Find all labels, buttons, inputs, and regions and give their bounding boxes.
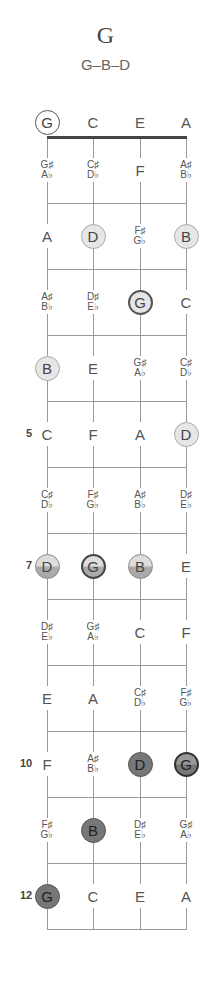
note-cell: G bbox=[27, 878, 67, 914]
note-cell: G♯A♭ bbox=[120, 350, 160, 386]
note-cell: D bbox=[27, 548, 67, 584]
enharmonic-note-label: A♯B♭ bbox=[87, 754, 99, 774]
enharmonic-note-label: F♯G♭ bbox=[41, 820, 54, 840]
note-cell: D♯E♭ bbox=[27, 614, 67, 650]
fretboard-diagram: GCEAG♯A♭C♯D♭FA♯B♭ADF♯G♭BA♯B♭D♯E♭GCBEG♯A♭… bbox=[0, 0, 211, 994]
note-cell: G♯A♭ bbox=[27, 152, 67, 188]
note-cell: G bbox=[73, 548, 113, 584]
note-cell: A♯B♭ bbox=[27, 284, 67, 320]
enharmonic-note-label: F♯G♭ bbox=[87, 490, 100, 510]
enharmonic-note-label: D♯E♭ bbox=[41, 622, 53, 642]
note-cell: E bbox=[120, 104, 160, 140]
note-cell: D♯E♭ bbox=[120, 812, 160, 848]
note-cell: F bbox=[120, 152, 160, 188]
chord-tone-dot: D bbox=[128, 752, 153, 777]
note-cell: F bbox=[73, 416, 113, 452]
chord-tone-dot: G bbox=[174, 752, 199, 777]
chord-tone-dot: G bbox=[81, 554, 106, 579]
fret-line bbox=[47, 467, 187, 468]
fret-line bbox=[47, 929, 187, 930]
note-cell: C bbox=[27, 416, 67, 452]
note-cell: A♯B♭ bbox=[73, 746, 113, 782]
note-label: E bbox=[135, 888, 145, 905]
fret-number-label: 7 bbox=[26, 559, 32, 571]
fret-number-label: 5 bbox=[26, 427, 32, 439]
note-label: A bbox=[42, 228, 52, 245]
note-label: A bbox=[181, 114, 191, 131]
note-cell: C bbox=[73, 878, 113, 914]
note-cell: B bbox=[73, 812, 113, 848]
fret-number-label: 10 bbox=[20, 757, 32, 769]
fret-line bbox=[47, 533, 187, 534]
note-cell: A♯B♭ bbox=[166, 152, 206, 188]
note-label: C bbox=[88, 888, 99, 905]
chord-tone-dot: D bbox=[35, 554, 60, 579]
note-label: C bbox=[88, 114, 99, 131]
fret-line bbox=[47, 335, 187, 336]
fret-line bbox=[47, 797, 187, 798]
enharmonic-note-label: D♯E♭ bbox=[134, 820, 146, 840]
note-cell: G bbox=[120, 284, 160, 320]
note-cell: A bbox=[166, 878, 206, 914]
note-cell: B bbox=[120, 548, 160, 584]
note-cell: C bbox=[166, 284, 206, 320]
chord-tone-dot: B bbox=[128, 554, 153, 579]
enharmonic-note-label: D♯E♭ bbox=[180, 490, 192, 510]
note-cell: F bbox=[166, 614, 206, 650]
enharmonic-note-label: A♯B♭ bbox=[180, 160, 192, 180]
note-cell: A bbox=[166, 104, 206, 140]
note-cell: A bbox=[120, 416, 160, 452]
fret-line bbox=[47, 665, 187, 666]
note-label: E bbox=[88, 360, 98, 377]
note-cell: A bbox=[73, 680, 113, 716]
note-cell: F♯G♭ bbox=[73, 482, 113, 518]
chord-tone-dot: G bbox=[35, 110, 60, 135]
note-cell: C♯D♭ bbox=[73, 152, 113, 188]
fret-line bbox=[47, 401, 187, 402]
note-cell: F♯G♭ bbox=[120, 218, 160, 254]
note-cell: G bbox=[166, 746, 206, 782]
note-cell: C bbox=[73, 104, 113, 140]
note-cell: D♯E♭ bbox=[166, 482, 206, 518]
chord-tone-dot: B bbox=[81, 818, 106, 843]
note-cell: B bbox=[27, 350, 67, 386]
note-cell: D bbox=[166, 416, 206, 452]
note-cell: A♯B♭ bbox=[120, 482, 160, 518]
fret-line bbox=[47, 599, 187, 600]
note-cell: F bbox=[27, 746, 67, 782]
enharmonic-note-label: A♯B♭ bbox=[41, 292, 53, 312]
enharmonic-note-label: C♯D♭ bbox=[87, 160, 99, 180]
enharmonic-note-label: G♯A♭ bbox=[87, 622, 100, 642]
enharmonic-note-label: A♯B♭ bbox=[134, 490, 146, 510]
note-label: A bbox=[88, 690, 98, 707]
note-cell: F♯G♭ bbox=[166, 680, 206, 716]
note-label: A bbox=[181, 888, 191, 905]
chord-tone-dot: B bbox=[174, 224, 199, 249]
chord-tone-dot: D bbox=[81, 224, 106, 249]
note-cell: D♯E♭ bbox=[73, 284, 113, 320]
note-cell: E bbox=[120, 878, 160, 914]
note-label: F bbox=[88, 426, 97, 443]
note-label: E bbox=[135, 114, 145, 131]
chord-tone-dot: G bbox=[128, 290, 153, 315]
note-cell: F♯G♭ bbox=[27, 812, 67, 848]
note-cell: D bbox=[73, 218, 113, 254]
note-cell: G♯A♭ bbox=[166, 812, 206, 848]
chord-tone-dot: G bbox=[35, 884, 60, 909]
note-cell: C♯D♭ bbox=[120, 680, 160, 716]
fret-line bbox=[47, 203, 187, 204]
enharmonic-note-label: F♯G♭ bbox=[180, 688, 193, 708]
enharmonic-note-label: G♯A♭ bbox=[180, 820, 193, 840]
note-cell: C♯D♭ bbox=[27, 482, 67, 518]
note-cell: E bbox=[73, 350, 113, 386]
note-label: C bbox=[181, 294, 192, 311]
enharmonic-note-label: C♯D♭ bbox=[180, 358, 192, 378]
note-cell: E bbox=[166, 548, 206, 584]
note-label: F bbox=[42, 756, 51, 773]
note-cell: G♯A♭ bbox=[73, 614, 113, 650]
enharmonic-note-label: C♯D♭ bbox=[134, 688, 146, 708]
fret-line bbox=[47, 269, 187, 270]
chord-tone-dot: D bbox=[174, 422, 199, 447]
note-label: E bbox=[181, 558, 191, 575]
note-cell: G bbox=[27, 104, 67, 140]
